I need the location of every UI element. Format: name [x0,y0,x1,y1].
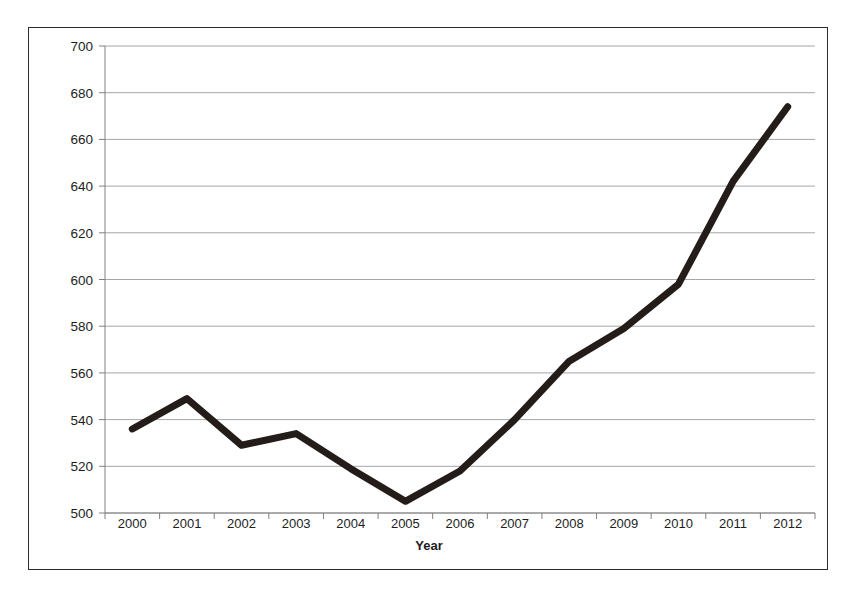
y-axis-ticks [99,46,105,513]
plot-canvas [29,28,829,571]
gridlines [105,46,815,513]
data-series-line [132,107,787,502]
figure-frame: Billion Cubic Meters Year 70068066064062… [28,27,828,570]
figure-caption [0,598,859,614]
line-chart: Billion Cubic Meters Year 70068066064062… [29,28,829,571]
x-axis-ticks [105,513,815,519]
